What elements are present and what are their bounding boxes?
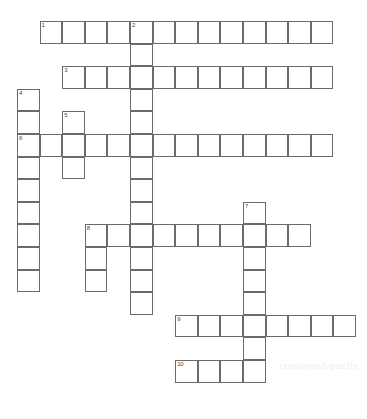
crossword-cell[interactable] [243, 21, 266, 44]
crossword-cell[interactable]: 6 [17, 134, 40, 157]
crossword-cell[interactable] [333, 315, 356, 338]
crossword-cell[interactable] [17, 157, 40, 180]
crossword-cell[interactable] [130, 224, 153, 247]
crossword-cell[interactable] [311, 134, 334, 157]
crossword-cell[interactable]: 5 [62, 111, 85, 134]
crossword-cell[interactable] [198, 134, 221, 157]
crossword-cell[interactable] [198, 315, 221, 338]
crossword-cell[interactable] [288, 21, 311, 44]
crossword-cell[interactable] [153, 21, 176, 44]
crossword-cell[interactable]: 2 [130, 21, 153, 44]
crossword-cell[interactable] [266, 315, 289, 338]
crossword-cell[interactable] [175, 134, 198, 157]
crossword-cell[interactable] [107, 224, 130, 247]
crossword-cell[interactable] [17, 270, 40, 293]
crossword-cell[interactable] [220, 21, 243, 44]
crossword-cell[interactable]: 3 [62, 66, 85, 89]
crossword-cell[interactable] [311, 315, 334, 338]
crossword-cell[interactable] [175, 224, 198, 247]
crossword-cell[interactable] [153, 224, 176, 247]
crossword-cell[interactable]: 4 [17, 89, 40, 112]
crossword-cell[interactable] [220, 315, 243, 338]
crossword-cell[interactable] [130, 247, 153, 270]
clue-number: 8 [87, 225, 90, 232]
crossword-cell[interactable] [243, 247, 266, 270]
crossword-cell[interactable] [220, 360, 243, 383]
crossword-cell[interactable] [288, 224, 311, 247]
clue-number: 3 [64, 67, 67, 74]
crossword-cell[interactable] [243, 224, 266, 247]
crossword-cell[interactable] [85, 134, 108, 157]
crossword-cell[interactable] [220, 224, 243, 247]
crossword-cell[interactable] [220, 66, 243, 89]
crossword-cell[interactable] [175, 66, 198, 89]
crossword-cell[interactable] [153, 134, 176, 157]
watermark-text: crossword-puzzle [279, 361, 359, 371]
crossword-cell[interactable] [62, 157, 85, 180]
crossword-cell[interactable] [130, 202, 153, 225]
clue-number: 10 [177, 361, 183, 368]
crossword-cell[interactable] [288, 315, 311, 338]
clue-number: 2 [132, 22, 135, 29]
crossword-cell[interactable] [130, 44, 153, 67]
crossword-cell[interactable]: 7 [243, 202, 266, 225]
crossword-cell[interactable] [17, 224, 40, 247]
crossword-cell[interactable] [40, 134, 63, 157]
crossword-cell[interactable] [198, 360, 221, 383]
crossword-cell[interactable] [130, 134, 153, 157]
crossword-cell[interactable] [243, 134, 266, 157]
crossword-cell[interactable] [288, 66, 311, 89]
crossword-cell[interactable] [17, 111, 40, 134]
crossword-cell[interactable]: 9 [175, 315, 198, 338]
clue-number: 9 [177, 316, 180, 323]
crossword-cell[interactable] [266, 66, 289, 89]
crossword-cell[interactable] [311, 66, 334, 89]
crossword-cell[interactable] [107, 66, 130, 89]
crossword-cell[interactable] [198, 224, 221, 247]
crossword-cell[interactable] [243, 337, 266, 360]
crossword-cell[interactable] [17, 179, 40, 202]
clue-number: 6 [19, 135, 22, 142]
crossword-grid: crossword-puzzle 12346578910 [0, 0, 367, 419]
crossword-cell[interactable] [130, 66, 153, 89]
crossword-cell[interactable] [266, 224, 289, 247]
crossword-cell[interactable] [85, 270, 108, 293]
crossword-cell[interactable] [85, 66, 108, 89]
crossword-cell[interactable]: 1 [40, 21, 63, 44]
clue-number: 4 [19, 90, 22, 97]
clue-number: 7 [245, 203, 248, 210]
crossword-cell[interactable] [130, 157, 153, 180]
crossword-cell[interactable] [130, 111, 153, 134]
crossword-cell[interactable]: 10 [175, 360, 198, 383]
crossword-cell[interactable] [130, 89, 153, 112]
crossword-cell[interactable] [62, 21, 85, 44]
crossword-cell[interactable] [85, 247, 108, 270]
crossword-cell[interactable] [311, 21, 334, 44]
clue-number: 5 [64, 112, 67, 119]
crossword-cell[interactable] [85, 21, 108, 44]
crossword-cell[interactable] [243, 66, 266, 89]
crossword-cell[interactable] [153, 66, 176, 89]
crossword-cell[interactable] [130, 292, 153, 315]
crossword-cell[interactable] [107, 21, 130, 44]
crossword-cell[interactable] [175, 21, 198, 44]
crossword-cell[interactable] [17, 247, 40, 270]
crossword-cell[interactable] [288, 134, 311, 157]
crossword-cell[interactable] [62, 134, 85, 157]
crossword-cell[interactable] [266, 21, 289, 44]
crossword-cell[interactable] [243, 315, 266, 338]
crossword-cell[interactable] [17, 202, 40, 225]
crossword-cell[interactable] [130, 270, 153, 293]
crossword-cell[interactable] [220, 134, 243, 157]
crossword-cell[interactable] [243, 292, 266, 315]
crossword-cell[interactable] [266, 134, 289, 157]
clue-number: 1 [42, 22, 45, 29]
crossword-cell[interactable] [198, 66, 221, 89]
crossword-cell[interactable] [243, 270, 266, 293]
crossword-cell[interactable] [130, 179, 153, 202]
crossword-cell[interactable] [107, 134, 130, 157]
crossword-cell[interactable]: 8 [85, 224, 108, 247]
crossword-cell[interactable] [198, 21, 221, 44]
crossword-cell[interactable] [243, 360, 266, 383]
